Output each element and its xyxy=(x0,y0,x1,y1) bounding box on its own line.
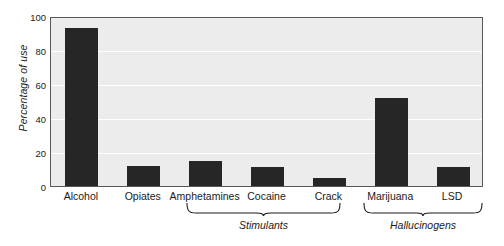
bar-chart-figure: Percentage of use 100 80 60 40 20 0 Alco… xyxy=(0,0,504,246)
y-tick-100: 100 xyxy=(24,13,46,23)
bar-marijuana xyxy=(375,98,408,186)
y-tick-40: 40 xyxy=(24,115,46,125)
bar-cocaine xyxy=(251,167,284,186)
y-tick-20: 20 xyxy=(24,149,46,159)
bar-lsd xyxy=(437,167,470,186)
bar-amphetamines xyxy=(189,161,222,187)
bar-crack xyxy=(313,178,346,187)
curly-brace-icon xyxy=(186,203,341,216)
plot-area xyxy=(50,17,483,187)
group-hallucinogens: Hallucinogens xyxy=(363,203,483,231)
group-stimulants: Stimulants xyxy=(186,203,341,231)
bar-opiates xyxy=(127,166,160,186)
bar-alcohol xyxy=(65,28,98,186)
group-label-stimulants: Stimulants xyxy=(186,219,341,231)
curly-brace-icon xyxy=(363,203,483,216)
bars-layer xyxy=(51,18,482,186)
group-label-hallucinogens: Hallucinogens xyxy=(363,219,483,231)
category-label-lsd: LSD xyxy=(402,190,502,202)
y-tick-60: 60 xyxy=(24,81,46,91)
y-tick-80: 80 xyxy=(24,47,46,57)
y-axis-tick-labels: 100 80 60 40 20 0 xyxy=(24,0,46,246)
